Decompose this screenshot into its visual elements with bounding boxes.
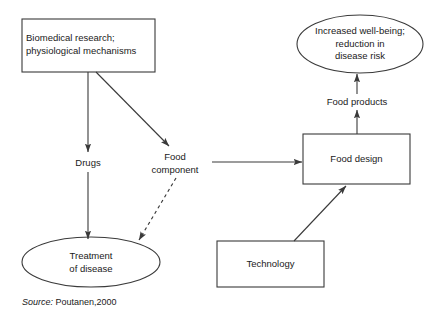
source-note-prefix: Source: [22, 297, 53, 307]
source-note-citation: Poutanen,2000 [56, 297, 117, 307]
edge-label-food-component: Food component [140, 151, 210, 176]
node-label-food-design: Food design [303, 153, 410, 166]
edge-label-drugs: Drugs [58, 157, 118, 170]
node-label-biomedical-research: Biomedical research; physiological mecha… [26, 32, 151, 57]
node-label-increased-wellbeing: Increased well-being; reduction in disea… [300, 25, 420, 63]
node-label-treatment-of-disease: Treatment of disease [31, 250, 151, 275]
edge-food-component-to-treatment [139, 178, 176, 240]
diagram-canvas: Biomedical research; physiological mecha… [0, 0, 435, 325]
source-note: Source: Poutanen,2000 [22, 297, 117, 307]
edge-technology-to-food-design [294, 186, 346, 241]
edge-biomedical-to-food-component [96, 72, 169, 146]
node-label-technology: Technology [217, 258, 324, 271]
edge-label-food-products: Food products [310, 96, 404, 109]
